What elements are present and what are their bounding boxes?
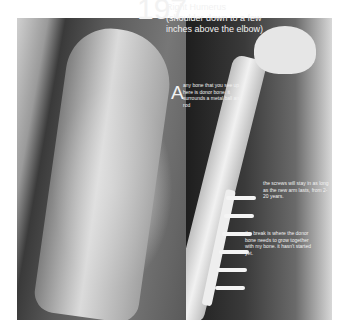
screw bbox=[217, 268, 247, 272]
screw bbox=[215, 286, 245, 290]
annotation-donor-bone: any bone that you see up here is donor b… bbox=[183, 82, 243, 108]
screw bbox=[226, 196, 256, 200]
xray-right-panel bbox=[186, 18, 332, 320]
annotation-screws: the screws will stay in as long as the n… bbox=[263, 180, 333, 200]
xray-left-panel bbox=[17, 18, 186, 320]
annotation-break: the break is where the donor bone needs … bbox=[245, 230, 317, 256]
panel-label: A bbox=[171, 83, 184, 103]
screw bbox=[224, 214, 254, 218]
xray-figure bbox=[17, 18, 332, 320]
figure-title: Right Humerus (shoulder down to a few in… bbox=[166, 2, 266, 35]
humerus-bone-left bbox=[32, 23, 176, 320]
